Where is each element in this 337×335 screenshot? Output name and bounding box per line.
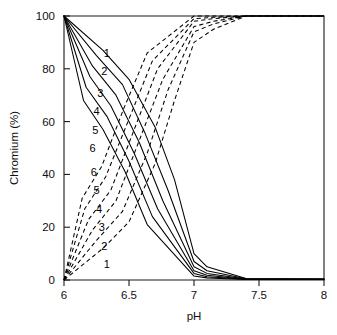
y-tick-label: 60 <box>42 116 55 128</box>
curve-label-solid-6: 6 <box>90 142 96 154</box>
curve-label-dashed-4: 4 <box>96 203 102 215</box>
tick-labels: 66.577.58020406080100 <box>36 10 327 301</box>
y-tick-label: 80 <box>42 63 55 75</box>
axis-titles: pHChromium (%) <box>8 111 201 322</box>
curve-label-solid-1: 1 <box>104 47 110 59</box>
chart-canvas: 66.577.58020406080100 123456654321 pHChr… <box>0 0 337 335</box>
x-tick-label: 7.5 <box>251 289 267 301</box>
curve-label-solid-3: 3 <box>97 87 103 99</box>
y-tick-label: 0 <box>49 274 55 286</box>
y-axis-title: Chromium (%) <box>8 111 20 185</box>
x-tick-label: 6.5 <box>121 289 137 301</box>
y-tick-label: 100 <box>36 10 55 22</box>
curve-label-dashed-1: 1 <box>104 258 110 270</box>
curve-label-dashed-3: 3 <box>99 221 105 233</box>
curve-label-dashed-2: 2 <box>101 240 107 252</box>
x-axis-title: pH <box>187 310 202 322</box>
curve-label-dashed-5: 5 <box>93 184 99 196</box>
x-tick-label: 6 <box>61 289 67 301</box>
curve-label-solid-2: 2 <box>101 65 107 77</box>
curve-label-solid-5: 5 <box>92 124 98 136</box>
y-tick-label: 40 <box>42 168 55 180</box>
curve-label-solid-4: 4 <box>93 105 99 117</box>
x-tick-label: 7 <box>191 289 197 301</box>
x-tick-label: 8 <box>321 289 327 301</box>
y-tick-label: 20 <box>42 221 55 233</box>
chromium-ph-chart-figure: 66.577.58020406080100 123456654321 pHChr… <box>0 0 337 335</box>
curve-label-dashed-6: 6 <box>91 166 97 178</box>
